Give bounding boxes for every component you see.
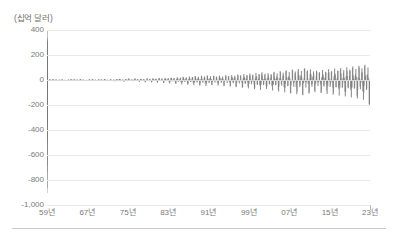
gridline <box>47 55 370 56</box>
gridline <box>47 205 370 206</box>
y-tick-label: 200 <box>4 51 44 59</box>
y-tick-label: 0 <box>4 76 44 84</box>
trade-balance-series <box>47 30 370 205</box>
gridline <box>47 180 370 181</box>
gridline <box>47 155 370 156</box>
y-tick-label: 400 <box>4 26 44 34</box>
chart-root: (십억 달러) 4002000-200-400-600-800-1,000 59… <box>0 0 398 249</box>
gridline <box>47 105 370 106</box>
x-tick-label: 91년 <box>201 209 217 217</box>
y-tick-label: -800 <box>4 176 44 184</box>
x-tick-label: 15년 <box>322 209 338 217</box>
gridline <box>47 30 370 31</box>
plot-area <box>47 30 370 205</box>
x-tick-label: 67년 <box>79 209 95 217</box>
x-tick-label: 99년 <box>241 209 257 217</box>
y-axis-unit-label: (십억 달러) <box>14 11 53 23</box>
y-tick-label: -200 <box>4 101 44 109</box>
x-axis-tick-labels: 59년67년75년83년91년99년07년15년23년 <box>0 209 398 223</box>
x-axis-tick-mark <box>370 205 371 210</box>
gridline <box>47 130 370 131</box>
x-tick-label: 07년 <box>281 209 297 217</box>
zero-gridline <box>47 80 370 81</box>
y-axis-tick-labels: 4002000-200-400-600-800-1,000 <box>0 30 44 205</box>
data-bar-group-interpolated <box>47 37 370 193</box>
y-tick-label: -1,000 <box>4 201 44 209</box>
y-tick-label: -600 <box>4 151 44 159</box>
y-tick-label: -400 <box>4 126 44 134</box>
bottom-divider <box>12 228 386 229</box>
x-tick-label: 59년 <box>39 209 55 217</box>
x-tick-label: 75년 <box>120 209 136 217</box>
x-tick-label: 83년 <box>160 209 176 217</box>
x-tick-label: 23년 <box>362 209 378 217</box>
